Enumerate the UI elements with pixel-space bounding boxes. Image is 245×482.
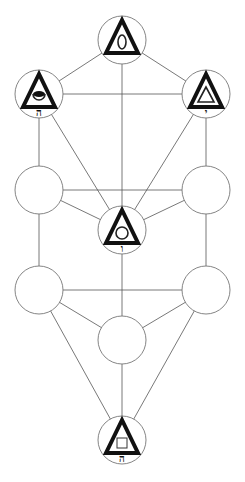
sephira-node — [182, 166, 230, 214]
sephira-node: ה — [15, 70, 63, 118]
node-circle — [98, 316, 146, 364]
hebrew-letter: י — [205, 107, 208, 118]
path-line — [122, 290, 206, 440]
hebrew-letter: ה — [119, 453, 125, 464]
node-circle — [15, 266, 63, 314]
path-line — [39, 290, 122, 440]
sephira-node — [15, 266, 63, 314]
sephira-node: ה — [98, 416, 146, 464]
sephira-node — [98, 316, 146, 364]
sephira-node — [98, 16, 146, 64]
hebrew-letter: ו — [121, 243, 124, 254]
node-circle — [182, 266, 230, 314]
sephira-node: ו — [98, 206, 146, 254]
sephira-node — [15, 166, 63, 214]
cup-icon — [33, 91, 45, 97]
tree-of-life-diagram: היוה — [0, 0, 245, 482]
sephira-node: י — [182, 70, 230, 118]
sephira-node — [182, 266, 230, 314]
node-circle — [15, 166, 63, 214]
node-circle — [182, 166, 230, 214]
hebrew-letter: ה — [36, 107, 42, 118]
sephirot-nodes: היוה — [15, 16, 230, 464]
